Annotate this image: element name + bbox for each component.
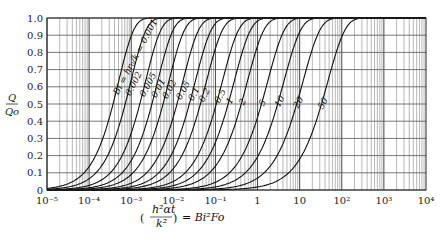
y-tick-label: 0.8 <box>27 47 43 58</box>
y-tick-label: 0 <box>37 185 43 196</box>
svg-text:= Bi²Fo: = Bi²Fo <box>182 211 225 224</box>
y-tick-label: 0.6 <box>27 81 43 92</box>
x-tick-label: 10 <box>293 195 306 206</box>
y-tick-label: 0.2 <box>27 150 43 161</box>
y-axis-label: Q Qo <box>5 92 19 117</box>
x-tick-label: 10³ <box>376 195 393 206</box>
heat-transfer-chart: 00.10.20.30.40.50.60.70.80.91.0 10⁻⁵10⁻⁴… <box>0 0 447 241</box>
y-tick-label: 1.0 <box>27 13 43 24</box>
x-tick-label: 10⁻¹ <box>204 195 226 206</box>
x-tick-label: 10⁻⁵ <box>36 195 58 206</box>
x-tick-label: 10⁻³ <box>120 195 142 206</box>
svg-text:k²: k² <box>156 217 167 230</box>
y-axis-ticks: 00.10.20.30.40.50.60.70.80.91.0 <box>27 13 43 196</box>
y-tick-label: 0.4 <box>27 116 43 127</box>
x-tick-label: 10⁴ <box>418 195 435 206</box>
x-tick-label: 1 <box>254 195 260 206</box>
svg-text:(: ( <box>140 212 144 225</box>
y-tick-label: 0.7 <box>27 64 43 75</box>
curve-label: 10 <box>272 94 286 109</box>
x-tick-label: 10⁻⁴ <box>78 195 100 206</box>
svg-text:Q: Q <box>8 92 16 103</box>
svg-text:): ) <box>173 212 177 225</box>
curve-label: 50 <box>316 96 330 111</box>
x-tick-label: 10² <box>333 195 350 206</box>
y-tick-label: 0.1 <box>27 167 43 178</box>
x-axis-ticks: 10⁻⁵10⁻⁴10⁻³10⁻²10⁻¹11010²10³10⁴ <box>36 195 434 206</box>
x-axis-label: ( h²αt k² ) = Bi²Fo <box>140 203 225 230</box>
svg-text:Qo: Qo <box>5 106 19 117</box>
y-tick-label: 0.9 <box>27 30 43 41</box>
y-tick-label: 0.3 <box>27 133 43 144</box>
y-tick-label: 0.5 <box>27 99 43 110</box>
